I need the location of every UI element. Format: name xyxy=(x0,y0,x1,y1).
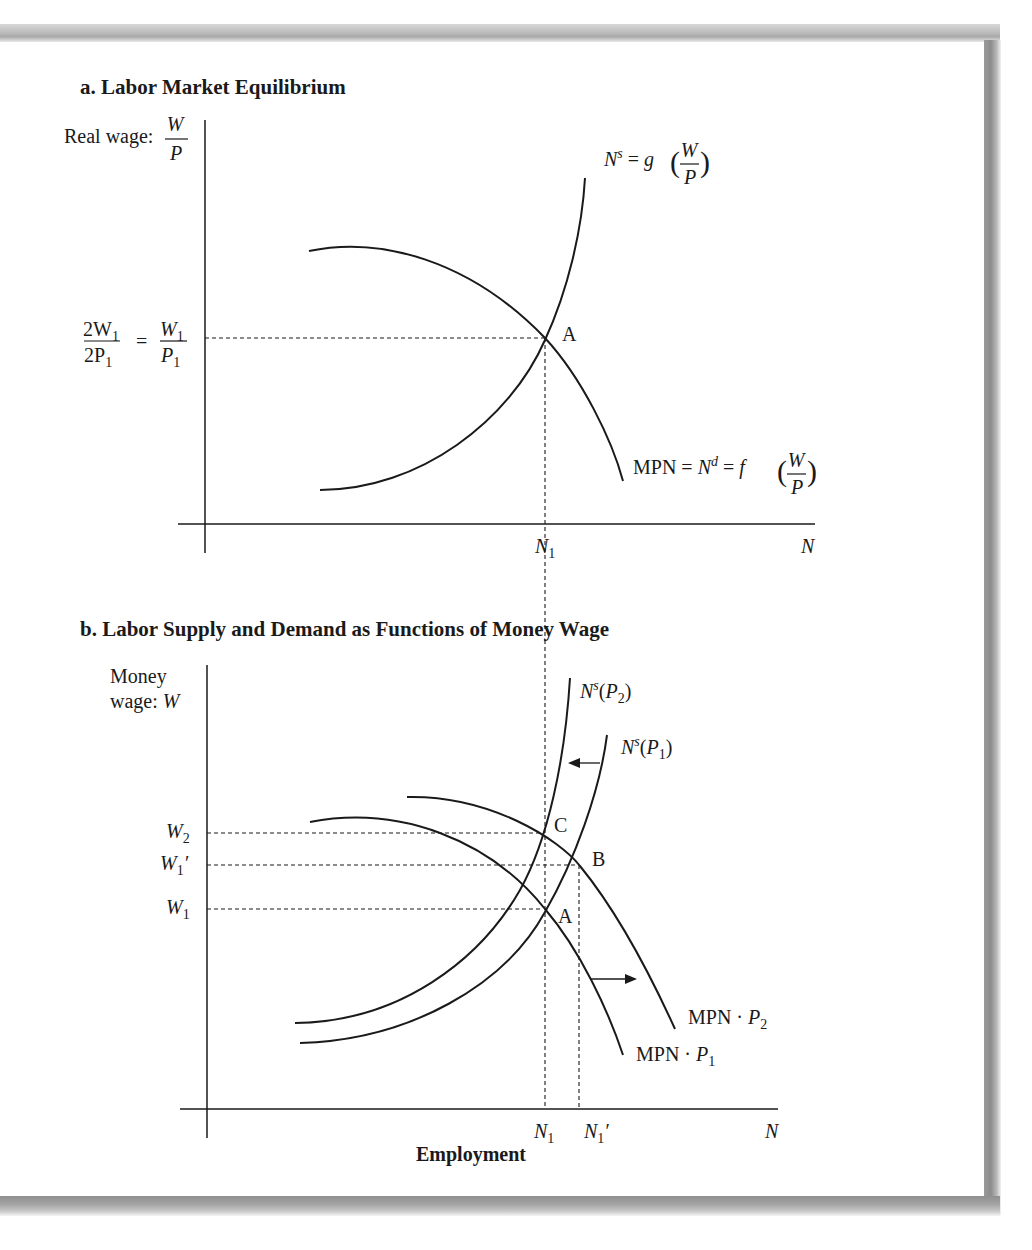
panel-b-point-b: B xyxy=(592,848,605,870)
panel-a-point-a: A xyxy=(562,323,577,345)
svg-text:Ns = g: Ns = g xyxy=(603,146,654,171)
svg-text:2P1: 2P1 xyxy=(84,344,112,370)
panel-b-x-tick-n1-prime: N1′ xyxy=(583,1120,609,1146)
panel-a-y-label: Real wage: xyxy=(64,125,153,148)
panel-b-supply-p1-label: Ns(P1) xyxy=(620,734,672,762)
svg-text:=: = xyxy=(136,330,147,352)
svg-text:W1: W1 xyxy=(160,318,184,344)
panel-b-y-tick-w1: W1 xyxy=(166,896,190,922)
panel-b-y-label-line2: wage: W xyxy=(110,690,182,713)
panel-a: a. Labor Market Equilibrium Real wage: W… xyxy=(64,75,817,640)
panel-a-x-label: N xyxy=(800,535,816,557)
svg-text:2W1: 2W1 xyxy=(83,318,119,344)
panel-b-demand-p2-curve xyxy=(407,797,675,1029)
svg-text:(: ( xyxy=(670,145,680,179)
panel-b-y-tick-w2: W2 xyxy=(166,820,190,846)
panel-b-x-tick-n1: N1 xyxy=(533,1120,554,1146)
svg-text:): ) xyxy=(700,145,710,179)
svg-text:(: ( xyxy=(777,454,787,488)
panel-b-y-label-line1: Money xyxy=(110,665,167,688)
panel-b-y-tick-w1-prime: W1′ xyxy=(160,852,189,878)
figure-canvas: a. Labor Market Equilibrium Real wage: W… xyxy=(0,0,1032,1250)
panel-b-point-c: C xyxy=(554,814,567,836)
panel-b-point-a: A xyxy=(558,905,573,927)
svg-text:P: P xyxy=(169,142,182,164)
panel-b-supply-p2-label: Ns(P2) xyxy=(579,678,631,706)
panel-b: b. Labor Supply and Demand as Functions … xyxy=(80,617,780,1166)
svg-text:W: W xyxy=(167,113,186,135)
panel-b-supply-p2-curve xyxy=(295,678,570,1023)
svg-text:MPN = Nd = f: MPN = Nd = f xyxy=(633,454,747,479)
svg-text:P: P xyxy=(683,166,696,188)
panel-a-demand-label: MPN = Nd = f ( W P ) xyxy=(633,449,817,498)
svg-text:P: P xyxy=(790,476,803,498)
svg-text:): ) xyxy=(807,454,817,488)
panel-b-x-label: N xyxy=(764,1120,780,1142)
panel-a-title: a. Labor Market Equilibrium xyxy=(80,75,346,99)
panel-b-supply-p1-curve xyxy=(300,735,607,1043)
panel-b-demand-p1-curve xyxy=(310,818,623,1055)
panel-a-y-label-fraction: W P xyxy=(165,113,188,164)
panel-b-title: b. Labor Supply and Demand as Functions … xyxy=(80,617,609,641)
panel-b-demand-p1-label: MPN · P1 xyxy=(636,1043,715,1069)
panel-a-supply-label: Ns = g ( W P ) xyxy=(603,139,710,188)
panel-b-demand-p2-label: MPN · P2 xyxy=(688,1006,767,1032)
panel-a-y-tick-label: 2W1 2P1 = W1 P1 xyxy=(83,318,187,370)
svg-text:P1: P1 xyxy=(160,344,180,370)
panel-a-demand-curve xyxy=(309,247,623,481)
svg-text:W: W xyxy=(788,449,807,471)
panel-b-x-title: Employment xyxy=(416,1143,526,1166)
svg-text:W: W xyxy=(681,139,700,161)
